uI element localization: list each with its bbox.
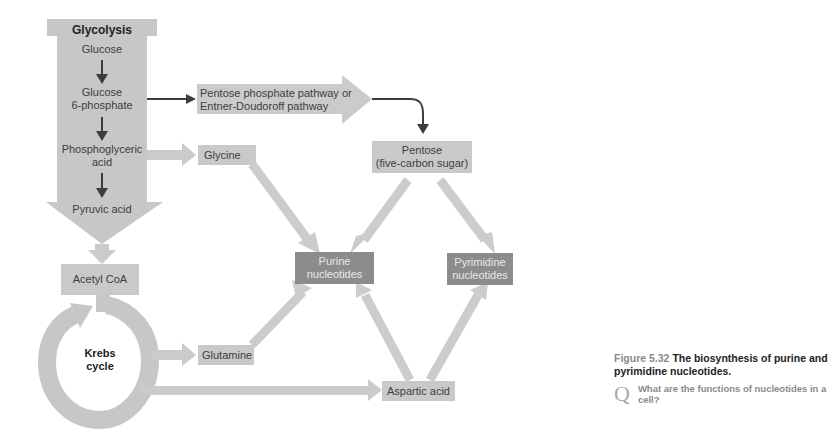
figure-number: Figure 5.32 bbox=[614, 352, 669, 364]
glycine-box: Glycine bbox=[198, 145, 256, 165]
purine-nucleotides-box: Purine nucleotides bbox=[295, 252, 374, 284]
glucose-6-phosphate-label: Glucose 6-phosphate bbox=[57, 86, 147, 112]
pentose-line1: Pentose bbox=[402, 144, 442, 157]
pentose-line2: (five-carbon sugar) bbox=[376, 157, 468, 170]
pyrimidine-nucleotides-box: Pyrimidine nucleotides bbox=[447, 253, 513, 285]
acetyl-to-krebs-connector bbox=[96, 294, 110, 312]
krebs-line1: Krebs bbox=[70, 347, 130, 360]
krebs-to-aspartic-arrow bbox=[140, 379, 382, 401]
glycolysis-title: Glycolysis bbox=[57, 24, 147, 37]
krebs-cycle-label: Krebs cycle bbox=[70, 347, 130, 373]
pyrimidine-line2: nucleotides bbox=[452, 269, 508, 282]
aspartic-acid-box: Aspartic acid bbox=[382, 381, 455, 401]
purine-line2: nucleotides bbox=[307, 268, 363, 281]
phosphoglyceric-acid-label: Phosphoglyceric acid bbox=[52, 143, 152, 169]
pentose-pathway-line1: Pentose phosphate pathway or bbox=[200, 87, 360, 100]
pentose-pathway-label: Pentose phosphate pathway or Entner-Doud… bbox=[200, 87, 360, 113]
krebs-line2: cycle bbox=[70, 360, 130, 373]
g6p-line1: Glucose bbox=[57, 86, 147, 99]
question-text: What are the functions of nucleotides in… bbox=[638, 383, 832, 405]
g6p-to-pentose-pathway-head bbox=[186, 94, 196, 104]
question-mark-icon: Q bbox=[614, 384, 630, 404]
pga-line2: acid bbox=[52, 156, 152, 169]
pyrimidine-line1: Pyrimidine bbox=[454, 256, 505, 269]
pga-line1: Phosphoglyceric bbox=[52, 143, 152, 156]
pentose-box: Pentose (five-carbon sugar) bbox=[372, 141, 472, 173]
pyruvic-to-acetyl-arrow bbox=[88, 244, 116, 264]
purine-line1: Purine bbox=[319, 255, 351, 268]
acetyl-coa-box: Acetyl CoA bbox=[61, 264, 139, 295]
glucose-label: Glucose bbox=[57, 43, 147, 56]
pyruvic-acid-label: Pyruvic acid bbox=[57, 203, 147, 216]
figure-question: Q What are the functions of nucleotides … bbox=[614, 383, 832, 405]
pentose-pathway-line2: Entner-Doudoroff pathway bbox=[200, 100, 360, 113]
g6p-line2: 6-phosphate bbox=[57, 99, 147, 112]
pathway-to-pentose-head bbox=[417, 124, 429, 134]
pga-to-glycine-arrow bbox=[147, 143, 196, 166]
figure-caption: Figure 5.32 The biosynthesis of purine a… bbox=[614, 352, 829, 378]
glutamine-box: Glutamine bbox=[198, 345, 254, 365]
pathway-to-pentose-curve bbox=[372, 99, 423, 126]
